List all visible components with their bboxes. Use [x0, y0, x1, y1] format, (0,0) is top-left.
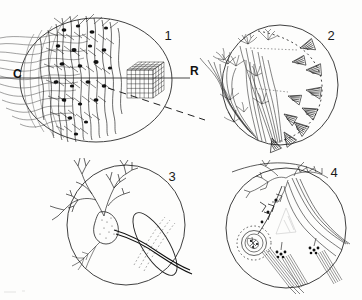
- rostral-label: R: [190, 64, 199, 78]
- figure-background: [0, 0, 362, 300]
- neuroanatomy-figure: 1 C R: [0, 0, 362, 300]
- panel-2-number: 2: [327, 28, 334, 43]
- panel-4-number: 4: [330, 165, 337, 180]
- caudal-label: C: [13, 67, 22, 81]
- panel-3-number: 3: [168, 169, 175, 184]
- figure-root: 1 C R: [0, 0, 362, 300]
- panel-1-number: 1: [164, 28, 171, 43]
